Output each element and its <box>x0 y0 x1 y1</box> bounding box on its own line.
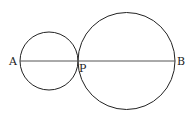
label-a: A <box>8 55 18 68</box>
label-p: P <box>79 62 87 75</box>
label-b: B <box>177 55 185 68</box>
diagram-canvas: A P B <box>0 0 191 122</box>
